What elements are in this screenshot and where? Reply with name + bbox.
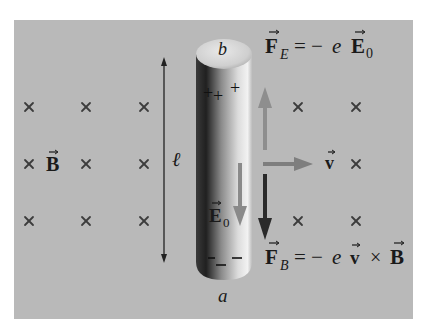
field-x-icon — [352, 217, 360, 225]
svg-text:E: E — [351, 34, 365, 58]
field-x-icon — [25, 103, 33, 111]
svg-text:F: F — [265, 245, 278, 269]
field-x-icon — [25, 217, 33, 225]
svg-text:E: E — [279, 47, 289, 62]
field-x-icon — [25, 160, 33, 168]
field-x-icon — [82, 103, 90, 111]
svg-text:e: e — [332, 245, 341, 269]
end-label-b: b — [218, 39, 227, 59]
length-dimension-arrow: ℓ — [161, 57, 181, 263]
svg-text:e: e — [332, 34, 341, 58]
conductor-rod: b + + + E 0 a — [196, 39, 252, 306]
svg-text:B: B — [390, 245, 404, 269]
magnetic-force-arrow — [258, 174, 272, 240]
svg-text:= −: = − — [294, 34, 323, 58]
svg-text:E: E — [209, 205, 222, 226]
field-x-icon — [140, 103, 148, 111]
end-label-a: a — [218, 285, 228, 306]
length-label: ℓ — [172, 148, 181, 170]
field-x-icon — [140, 160, 148, 168]
positive-charge: + — [213, 86, 223, 106]
velocity-label: v — [325, 150, 335, 173]
field-x-icon — [82, 217, 90, 225]
field-x-icon — [82, 160, 90, 168]
svg-text:0: 0 — [223, 215, 230, 230]
velocity-arrow — [263, 157, 313, 171]
svg-text:F: F — [265, 34, 278, 58]
svg-text:×: × — [370, 246, 381, 268]
svg-text:B: B — [46, 153, 59, 175]
svg-text:B: B — [280, 258, 289, 273]
positive-charge: + — [230, 78, 240, 98]
field-x-icon — [352, 103, 360, 111]
field-x-icon — [294, 103, 302, 111]
positive-charge: + — [203, 83, 213, 103]
motional-emf-diagram: B ℓ b + + + E 0 a — [0, 0, 428, 333]
svg-text:0: 0 — [366, 46, 373, 61]
magnetic-force-equation: F B = − e v × B — [265, 241, 404, 273]
field-x-icon — [140, 217, 148, 225]
svg-text:= −: = − — [294, 245, 323, 269]
field-x-icon — [352, 160, 360, 168]
svg-text:v: v — [325, 153, 334, 173]
electric-force-equation: F E = − e E 0 — [265, 30, 373, 62]
electric-force-arrow — [258, 87, 272, 150]
field-label-b: B — [46, 150, 59, 175]
svg-text:v: v — [350, 247, 360, 268]
field-x-icon — [294, 217, 302, 225]
